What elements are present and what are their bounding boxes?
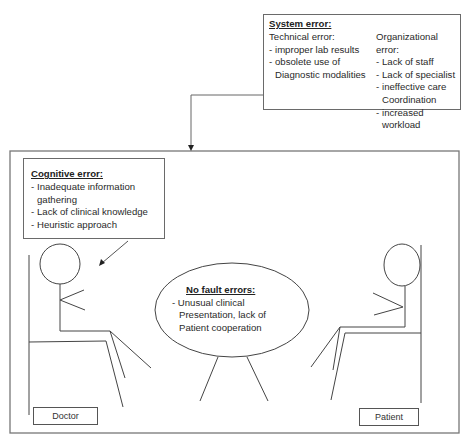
doctor-arm-upper <box>60 290 84 300</box>
technical-error-column: Technical error: -improper lab results -… <box>269 31 374 81</box>
patient-leg-1 <box>311 327 340 367</box>
table-leg-left <box>200 357 218 401</box>
system-error-arrowhead-icon <box>188 145 194 151</box>
system-error-box: System error: Technical error: -improper… <box>263 14 461 110</box>
doctor-arm-lower <box>60 300 85 310</box>
doctor-chair-seat <box>29 341 106 342</box>
patient-arm-upper <box>373 293 403 307</box>
cognitive-error-item: -Lack of clinical knowledge <box>31 206 161 219</box>
system-error-connector <box>191 95 263 148</box>
organizational-error-item: -Lack of specialist <box>376 69 461 82</box>
organizational-error-item: -increased workload <box>376 107 461 132</box>
technical-error-item: -obsolete use of Diagnostic modalities <box>269 56 371 81</box>
doctor-figure <box>29 244 151 415</box>
no-fault-errors-title: No fault errors: <box>172 284 297 297</box>
cognitive-error-arrow <box>102 241 128 263</box>
doctor-chair-leg <box>106 341 123 407</box>
doctor-label: Doctor <box>33 407 98 425</box>
doctor-head <box>40 244 80 284</box>
patient-label: Patient <box>359 408 419 426</box>
cognitive-error-item: -Heuristic approach <box>31 219 161 232</box>
cognitive-error-title: Cognitive error: <box>31 168 103 181</box>
cognitive-error-item: -Inadequate information gathering <box>31 181 147 206</box>
patient-head <box>384 244 420 286</box>
system-error-title: System error: <box>269 18 331 31</box>
cognitive-arrowhead-icon <box>99 259 105 266</box>
cognitive-error-box: Cognitive error: -Inadequate information… <box>23 158 165 239</box>
technical-error-title: Technical error: <box>269 31 374 44</box>
organizational-error-column: Organizational error: -Lack of staff -La… <box>376 31 461 132</box>
organizational-error-item: -Lack of staff <box>376 56 461 69</box>
no-fault-errors-line: Patient cooperation <box>172 322 297 335</box>
organizational-error-item: -ineffective care Coordination <box>376 81 452 106</box>
table-leg-right <box>247 357 268 401</box>
patient-figure <box>311 244 421 403</box>
no-fault-errors-line: Presentation, lack of <box>172 309 297 322</box>
patient-arm-lower <box>374 307 403 315</box>
technical-error-item: -improper lab results <box>269 44 374 57</box>
cognitive-error-list: -Inadequate information gathering -Lack … <box>31 181 161 231</box>
no-fault-errors-text: No fault errors: - Unusual clinical Pres… <box>172 284 297 334</box>
organizational-error-title: Organizational error: <box>376 31 461 56</box>
no-fault-errors-line: - Unusual clinical <box>172 297 297 310</box>
